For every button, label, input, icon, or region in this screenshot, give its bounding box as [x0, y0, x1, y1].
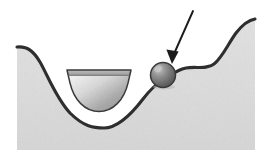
bowl-rim [67, 70, 131, 76]
energy-landscape-figure: Potential energy landscape with ball on … [0, 0, 268, 161]
ball-sphere [151, 63, 176, 88]
figure-container: Potential energy landscape with ball on … [0, 0, 268, 161]
